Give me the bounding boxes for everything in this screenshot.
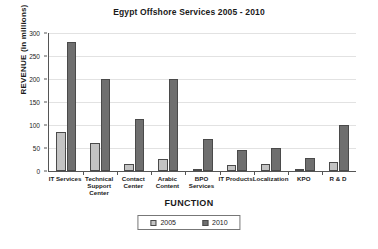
bar-chart: Egypt Offshore Services 2005 - 2010 REVE… [0, 0, 378, 249]
gridline [49, 56, 356, 57]
bar-2005-contact-center [124, 164, 134, 171]
bar-2010-bpo-services [203, 139, 213, 171]
x-axis-label: R & D [321, 175, 355, 182]
bar-2005-kpo [295, 169, 305, 171]
y-axis-tick-mark [44, 171, 47, 172]
y-axis-tick-mark [44, 79, 47, 80]
x-axis-label: IT Products [219, 175, 253, 182]
x-axis-label: IT Services [48, 175, 82, 182]
x-axis-label: Arabic Content [150, 175, 184, 189]
legend-label: 2005 [160, 219, 176, 226]
gridline [49, 102, 356, 103]
y-axis-tick-label: 200 [29, 76, 40, 83]
bar-2010-localization [271, 148, 281, 171]
x-axis-label: BPO Services [184, 175, 218, 189]
bar-2005-it-products [227, 165, 237, 171]
y-axis-tick-mark [44, 56, 47, 57]
legend-swatch-icon [150, 220, 156, 226]
x-axis-label: Localization [253, 175, 287, 182]
y-axis-tick-labels: 050100150200250300 [0, 33, 44, 171]
x-axis-label: KPO [287, 175, 321, 182]
y-axis-tick-label: 250 [29, 53, 40, 60]
bar-2010-kpo [305, 158, 315, 171]
bar-2010-it-products [237, 150, 247, 171]
legend-swatch-icon [202, 220, 208, 226]
legend-item-2010[interactable]: 2010 [202, 219, 228, 226]
bar-2010-arabic-content [169, 79, 179, 171]
chart-legend: 20052010 [137, 215, 240, 230]
bar-2010-technical-support-center [101, 79, 111, 171]
bar-2005-r-d [329, 162, 339, 171]
chart-title: Egypt Offshore Services 2005 - 2010 [0, 7, 378, 17]
y-axis-tick-label: 50 [33, 145, 40, 152]
legend-label: 2010 [212, 219, 228, 226]
plot-area [48, 33, 356, 172]
gridline [49, 125, 356, 126]
y-axis-tick-label: 150 [29, 99, 40, 106]
y-axis-tick-mark [44, 148, 47, 149]
y-axis-tick-label: 100 [29, 122, 40, 129]
bar-2005-bpo-services [193, 169, 203, 171]
bar-2005-technical-support-center [90, 143, 100, 171]
legend-item-2005[interactable]: 2005 [150, 219, 176, 226]
bar-2010-contact-center [135, 119, 145, 171]
y-axis-tick-mark [44, 125, 47, 126]
gridline [49, 79, 356, 80]
y-axis-tick-mark [44, 102, 47, 103]
bar-2005-it-services [56, 132, 66, 171]
bar-2010-r-d [339, 125, 349, 171]
y-axis-tick-mark [44, 33, 47, 34]
gridline [49, 33, 356, 34]
bar-2005-localization [261, 164, 271, 171]
x-axis-label: Contact Center [116, 175, 150, 189]
y-axis-tick-label: 300 [29, 30, 40, 37]
y-axis-tick-label: 0 [36, 168, 40, 175]
x-axis-label: Technical Support Center [82, 175, 116, 197]
bar-2010-it-services [67, 42, 77, 171]
bar-2005-arabic-content [158, 159, 168, 171]
x-axis-title: FUNCTION [0, 198, 378, 208]
